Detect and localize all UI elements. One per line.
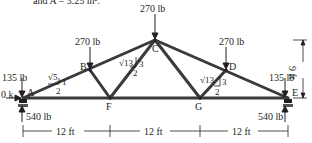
top-chord-right [155, 40, 288, 98]
load-arrows [6, 14, 288, 122]
reaction-e: 540 lb [258, 112, 283, 122]
support-e-icon [283, 99, 293, 107]
dimension-span-1: 12 ft [56, 127, 75, 137]
node-label-g: G [195, 102, 202, 112]
node-label-b: B [80, 62, 87, 72]
slope-ab-rise: 1 [62, 77, 67, 87]
node-label-a: A [27, 88, 34, 98]
slope-ab-run: 2 [56, 86, 61, 96]
slope-ab-hyp: √5 [48, 72, 57, 82]
slope-gd-hyp: √13 [200, 75, 214, 85]
node-label-d: D [229, 62, 236, 72]
dimension-span-3: 12 ft [232, 127, 251, 137]
slope-fc-rise: 3 [139, 59, 144, 69]
slope-gd-run: 2 [215, 87, 220, 97]
node-label-e: E [292, 88, 298, 98]
load-b: 270 lb [75, 37, 100, 47]
dimension-height: 9 ft [287, 66, 297, 80]
node-label-f: F [106, 102, 112, 112]
load-c: 270 lb [140, 4, 165, 14]
reaction-a: 540 lb [26, 112, 51, 122]
load-a-horizontal: 0 k [1, 90, 14, 100]
slope-fc-run: 2 [133, 68, 138, 78]
load-d: 270 lb [219, 37, 244, 47]
dimension-span-2: 12 ft [144, 127, 163, 137]
support-a-icon [18, 99, 28, 107]
node-label-c: C [152, 44, 159, 54]
load-a: 135 lb [2, 73, 27, 83]
member-bf [90, 70, 110, 98]
slope-fc-hyp: √13 [119, 58, 133, 68]
slope-gd-rise: 3 [222, 77, 227, 87]
